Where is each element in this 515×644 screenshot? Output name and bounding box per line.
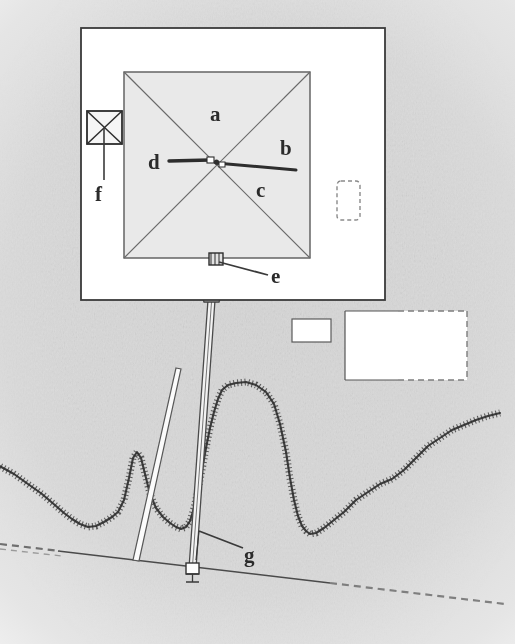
label-d: d xyxy=(148,152,160,173)
label-e: e xyxy=(271,266,280,287)
mast-base-block xyxy=(186,563,199,574)
ground-line-dashed-left xyxy=(0,544,60,551)
hatched-profile-trace xyxy=(0,382,500,534)
leader-line-g xyxy=(199,531,243,548)
mast-base-foot xyxy=(186,574,199,582)
boom-hub xyxy=(214,159,219,164)
label-g: g xyxy=(244,545,255,566)
label-b: b xyxy=(280,138,292,159)
label-a: a xyxy=(210,104,221,125)
boom-arm-left xyxy=(169,160,210,161)
white-diagonal-strut xyxy=(133,368,181,561)
vertical-mast-group xyxy=(186,292,243,582)
label-c: c xyxy=(256,180,265,201)
diagram-vectors xyxy=(0,0,515,644)
profile-trace-group xyxy=(0,382,500,534)
large-dashed-callout-box xyxy=(345,311,467,380)
profile-hatch-ticks xyxy=(0,382,500,534)
figure-canvas: a b c d e f g xyxy=(0,0,515,644)
small-solid-callout-box xyxy=(292,319,331,342)
boom-collar-left xyxy=(207,157,214,163)
label-f: f xyxy=(95,184,102,205)
ground-line-dashed-right xyxy=(330,583,505,604)
boom-collar-right xyxy=(219,162,225,167)
